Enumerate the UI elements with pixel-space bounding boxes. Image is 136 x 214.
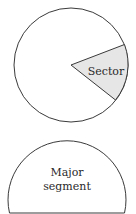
sector-diagram: Sector — [14, 8, 128, 122]
major-segment-label-line1: Major — [50, 166, 84, 179]
circle-diagrams: Sector Major segment — [0, 0, 136, 214]
major-segment-label-line2: segment — [43, 180, 91, 193]
sector-label: Sector — [88, 65, 125, 78]
major-segment-diagram: Major segment — [8, 141, 126, 213]
